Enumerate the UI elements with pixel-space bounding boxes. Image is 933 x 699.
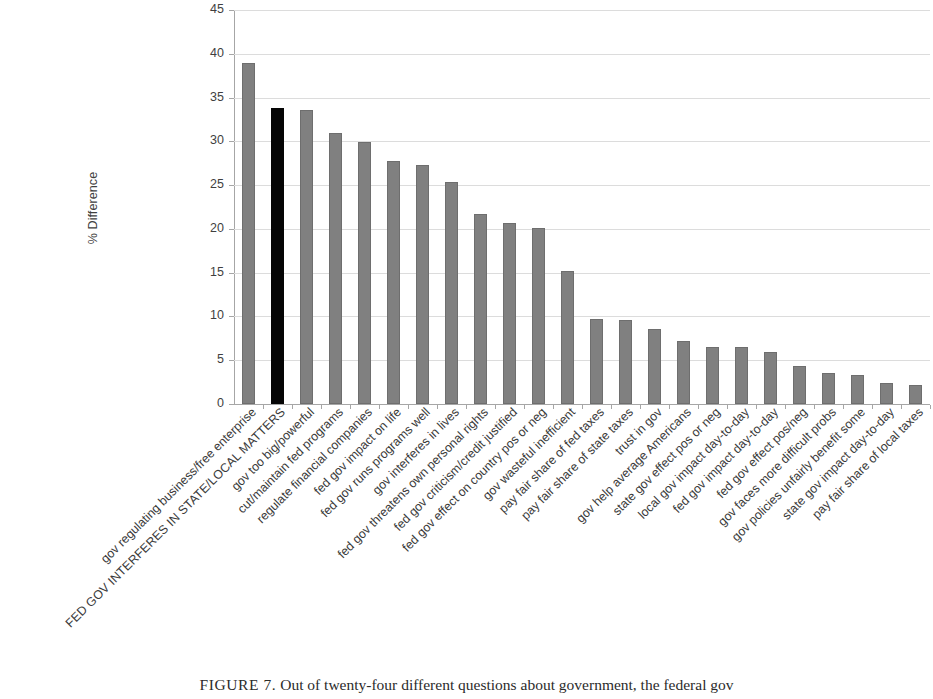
figure-caption-text: Out of twenty-four different questions a… [280,676,733,693]
bar [706,347,719,404]
y-tick-label: 40 [184,47,224,60]
bar [387,161,400,404]
y-tick-label: 25 [184,178,224,191]
bar [474,214,487,404]
bar [300,110,313,404]
y-tick-label: 35 [184,91,224,104]
figure-number: FIGURE 7. [199,676,276,693]
bar [445,182,458,404]
bar [735,347,748,404]
y-tick-label: 5 [184,353,224,366]
bar [648,329,661,404]
bar [242,63,255,404]
bar [358,142,371,404]
bar [677,341,690,404]
bar [880,383,893,404]
bar [329,133,342,404]
bar [619,320,632,404]
bar [822,373,835,404]
bar [561,271,574,404]
bar [271,108,284,404]
y-tick-label: 45 [184,3,224,16]
bar [793,366,806,404]
bar [503,223,516,404]
y-tick-label: 15 [184,266,224,279]
x-axis-category-labels: gov regulating business/free enterpriseF… [0,404,933,684]
y-axis-title: % Difference [86,128,100,288]
y-tick-label: 10 [184,309,224,322]
bar [764,352,777,404]
x-axis-label-text: FED GOV INTERFERES IN STATE/LOCAL MATTER… [63,405,287,629]
figure-caption: FIGURE 7. Out of twenty-four different q… [0,676,933,699]
bars-group [234,10,930,404]
bar [416,165,429,404]
figure-container: % Difference 051015202530354045 gov regu… [0,0,933,699]
y-tick-label: 30 [184,134,224,147]
bar [851,375,864,404]
bar [590,319,603,404]
y-tick-label: 20 [184,222,224,235]
bar [909,385,922,404]
bar [532,228,545,404]
